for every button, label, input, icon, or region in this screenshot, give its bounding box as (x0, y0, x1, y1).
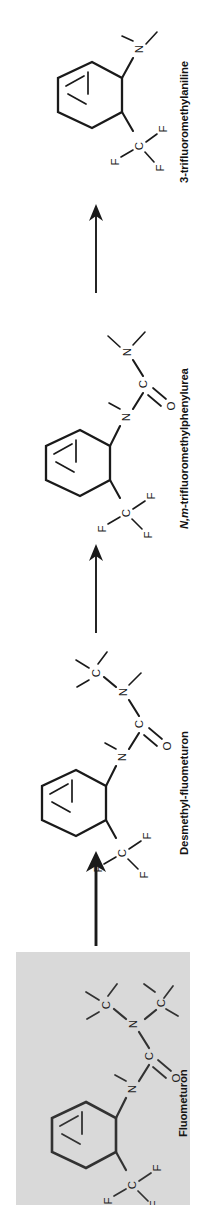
atom-label-O: O (161, 741, 173, 750)
structure-3-trifluoromethylaniline: N C F F F (0, 0, 206, 200)
atom-label-N: N (127, 1020, 139, 1028)
atom-label-C: C (100, 1001, 112, 1009)
atom-label-F: F (142, 531, 154, 538)
compound-label-n-m-trifluoromethylphenylurea: N,m-trifluoromethylphenylurea (179, 368, 190, 529)
structure-desmethyl-fluometuron: N C O N C C F F F (0, 625, 206, 883)
atom-label-N: N (121, 348, 133, 356)
atom-label-C: C (126, 1181, 138, 1189)
atom-label-F: F (96, 525, 108, 532)
label-text: 3-trifluoromethylaniline (178, 61, 190, 183)
compound-n-m-trifluoromethylphenylurea: N C O N C F F F N,m-trifluoromethylpheny… (0, 296, 206, 544)
compound-label-fluometuron: Fluometuron (178, 1070, 189, 1137)
atom-label-C: C (137, 380, 149, 388)
atom-label-N: N (117, 688, 129, 696)
atom-label-F: F (138, 871, 150, 878)
atom-label-F: F (141, 832, 153, 839)
structure-n-m-trifluoromethylphenylurea: N C O N C F F F (0, 296, 206, 544)
atom-label-N: N (133, 45, 145, 53)
pathway-figure: N C F F F 3-trifluoromethylaniline (0, 0, 206, 1223)
atom-label-C: C (133, 142, 145, 150)
atom-label-F: F (148, 1200, 160, 1205)
label-text: Desmethyl-fluometuron (178, 731, 190, 855)
atom-label-C: C (116, 849, 128, 857)
atom-label-F: F (157, 125, 169, 132)
label-text-roman: trifluoromethylphenylurea (178, 368, 190, 504)
atom-label-F: F (154, 164, 166, 171)
arrow-phenylurea-to-aniline (80, 200, 112, 295)
atom-label-F: F (109, 158, 121, 165)
compound-fluometuron: N C O N C C C F F F Fluometuron (16, 952, 190, 1205)
atom-label-C: C (143, 1052, 155, 1060)
atom-label-N: N (116, 753, 128, 761)
atom-label-F: F (151, 1164, 163, 1171)
atom-label-C: C (133, 720, 145, 728)
atom-label-C: C (155, 999, 167, 1007)
compound-desmethyl-fluometuron: N C O N C C F F F Desmethyl-fluometuron (0, 625, 206, 883)
label-text: Fluometuron (177, 1070, 189, 1137)
atom-label-F: F (145, 492, 157, 499)
atom-label-N: N (126, 1085, 138, 1093)
compound-3-trifluoromethylaniline: N C F F F 3-trifluoromethylaniline (0, 0, 206, 200)
arrow-fluometuron-to-desmethyl (78, 848, 114, 948)
atom-label-C: C (90, 669, 102, 677)
arrow-desmethyl-to-phenylurea (80, 540, 112, 635)
structure-fluometuron: N C O N C C C F F F (16, 952, 190, 1205)
atom-label-F: F (102, 1197, 114, 1204)
compound-label-3-trifluoromethylaniline: 3-trifluoromethylaniline (179, 61, 190, 183)
atom-label-C: C (120, 509, 132, 517)
atom-label-O: O (165, 401, 177, 410)
atom-label-N: N (120, 413, 132, 421)
label-text-italic: N,m- (178, 504, 190, 529)
compound-label-desmethyl-fluometuron: Desmethyl-fluometuron (179, 731, 190, 855)
